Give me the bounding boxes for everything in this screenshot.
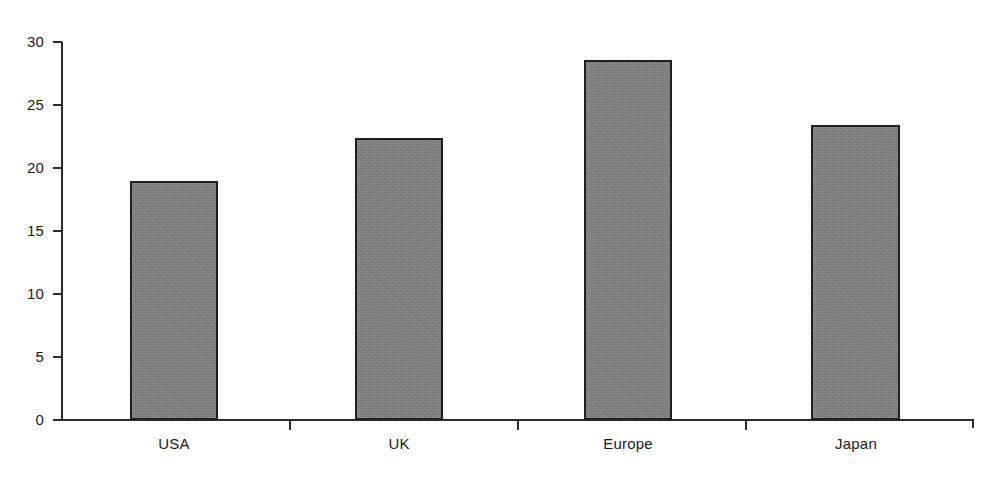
y-tick-label-30: 30 <box>0 34 44 49</box>
bar-uk <box>355 138 443 420</box>
x-axis-label-europe: Europe <box>568 436 688 452</box>
y-tick-mark-0 <box>53 419 62 421</box>
x-tick-mark-3 <box>745 421 747 430</box>
bar-europe <box>584 60 672 420</box>
y-tick-mark-30 <box>53 41 62 43</box>
y-tick-mark-5 <box>53 356 62 358</box>
bar-japan <box>811 125 900 420</box>
x-tick-mark-2 <box>517 421 519 430</box>
y-tick-label-0: 0 <box>0 412 44 427</box>
bar-chart: 0 5 10 15 20 25 30 USA UK Europe Japan <box>0 0 1000 479</box>
x-axis-label-uk: UK <box>339 436 459 452</box>
y-tick-label-20: 20 <box>0 160 44 175</box>
y-tick-mark-10 <box>53 293 62 295</box>
y-tick-mark-20 <box>53 167 62 169</box>
x-axis-label-japan: Japan <box>796 436 916 452</box>
y-tick-label-5: 5 <box>0 349 44 364</box>
y-tick-label-25: 25 <box>0 97 44 112</box>
x-axis-end-tick <box>972 419 974 428</box>
x-tick-mark-1 <box>289 421 291 430</box>
y-tick-mark-15 <box>53 230 62 232</box>
y-tick-label-15: 15 <box>0 223 44 238</box>
y-tick-label-10: 10 <box>0 286 44 301</box>
plot-area: 0 5 10 15 20 25 30 USA UK Europe Japan <box>0 0 1000 479</box>
y-tick-mark-25 <box>53 104 62 106</box>
x-axis-label-usa: USA <box>114 436 234 452</box>
bar-usa <box>130 181 218 420</box>
